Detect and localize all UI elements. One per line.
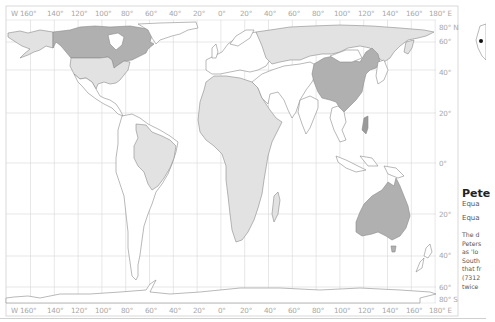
panel-body-line: as 'lo (462, 248, 495, 257)
svg-text:0°: 0° (218, 9, 226, 18)
svg-text:20°: 20° (193, 9, 205, 18)
svg-text:100°: 100° (95, 9, 112, 18)
svg-text:20°: 20° (240, 306, 252, 315)
svg-text:40°: 40° (264, 9, 276, 18)
svg-text:0°: 0° (439, 159, 447, 168)
svg-text:40°: 40° (169, 9, 181, 18)
panel-subtitle-2: Equa (462, 214, 495, 223)
svg-text:60°: 60° (145, 306, 157, 315)
svg-text:60°: 60° (439, 37, 451, 46)
svg-text:W 160°: W 160° (11, 306, 37, 315)
bottom-divider (0, 318, 486, 319)
svg-text:80°: 80° (121, 306, 133, 315)
svg-text:40°: 40° (439, 68, 451, 77)
svg-text:60°: 60° (288, 9, 300, 18)
svg-text:140°: 140° (47, 306, 64, 315)
svg-text:60°: 60° (145, 9, 157, 18)
svg-text:120°: 120° (358, 9, 375, 18)
svg-text:120°: 120° (358, 306, 375, 315)
svg-text:100°: 100° (95, 306, 112, 315)
svg-text:20°: 20° (193, 306, 205, 315)
svg-text:100°: 100° (334, 306, 351, 315)
svg-text:80°: 80° (121, 9, 133, 18)
svg-text:20°: 20° (439, 210, 451, 219)
svg-text:140°: 140° (382, 306, 399, 315)
region-tasmania (391, 246, 396, 252)
svg-text:40°: 40° (264, 306, 276, 315)
svg-text:120°: 120° (71, 9, 88, 18)
svg-text:80°: 80° (312, 306, 324, 315)
svg-text:80° N: 80° N (439, 23, 458, 32)
svg-text:160°: 160° (406, 306, 423, 315)
svg-text:120°: 120° (71, 306, 88, 315)
svg-text:0°: 0° (218, 306, 226, 315)
svg-text:60°: 60° (439, 283, 451, 292)
panel-body-line: South (462, 257, 495, 266)
panel-body-line: The d (462, 231, 495, 240)
svg-text:20°: 20° (439, 109, 451, 118)
panel-body-line: (7312 (462, 274, 495, 283)
svg-text:60°: 60° (288, 306, 300, 315)
svg-text:40°: 40° (439, 251, 451, 260)
info-panel: Pete Equa Equa The d Peters as 'lo South… (462, 188, 495, 291)
location-marker-icon (479, 39, 483, 43)
svg-text:140°: 140° (382, 9, 399, 18)
panel-body: The d Peters as 'lo South that fr (7312 … (462, 231, 495, 291)
inset-map (476, 24, 486, 60)
svg-text:180° E: 180° E (429, 9, 453, 18)
svg-text:W 160°: W 160° (11, 9, 37, 18)
svg-text:160°: 160° (406, 9, 423, 18)
svg-text:100°: 100° (334, 9, 351, 18)
panel-body-line: that fr (462, 265, 495, 274)
svg-text:180° E: 180° E (429, 306, 453, 315)
panel-title: Pete (462, 188, 495, 200)
svg-text:80°: 80° (312, 9, 324, 18)
panel-body-line: twice (462, 283, 495, 292)
panel-subtitle-1: Equa (462, 200, 495, 209)
svg-text:20°: 20° (240, 9, 252, 18)
svg-text:80° S: 80° S (439, 295, 458, 304)
svg-text:40°: 40° (169, 306, 181, 315)
panel-body-line: Peters (462, 240, 495, 249)
svg-text:140°: 140° (47, 9, 64, 18)
